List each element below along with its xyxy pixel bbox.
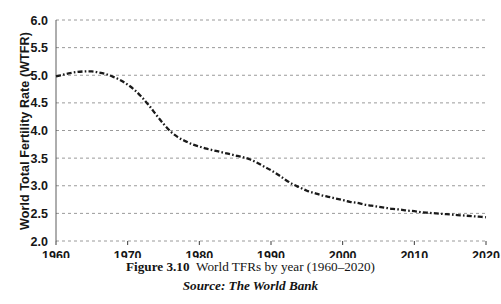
caption-figure-number: Figure 3.10: [126, 259, 190, 274]
chart-plot-area: 2.02.53.03.54.04.55.05.56.0 196019701980…: [0, 0, 501, 258]
figure-container: 2.02.53.03.54.04.55.05.56.0 196019701980…: [0, 0, 501, 304]
caption-description: World TFRs by year (1960–2020): [196, 259, 375, 274]
y-tick-label: 2.5: [31, 207, 48, 221]
y-axis-title: World Total Fertility Rate (WTFR): [18, 32, 32, 230]
line-chart-svg: 2.02.53.03.54.04.55.05.56.0 196019701980…: [0, 0, 501, 258]
gridlines: [56, 20, 486, 241]
y-tick-label: 3.5: [31, 152, 48, 166]
y-tick-label: 6.0: [31, 14, 48, 28]
x-tick-label: 1980: [185, 249, 213, 258]
x-tick-label: 2010: [400, 249, 428, 258]
x-tick-label: 1970: [114, 249, 142, 258]
y-tick-label: 2.0: [31, 235, 48, 249]
y-tick-label: 3.0: [31, 179, 48, 193]
caption-source-line: Source: The World Bank: [0, 277, 501, 295]
x-axis-tick-labels: 1960197019801990200020102020: [42, 249, 500, 258]
figure-caption: Figure 3.10 World TFRs by year (1960–202…: [0, 258, 501, 295]
x-axis-tick-marks: [56, 241, 486, 245]
x-tick-label: 2000: [329, 249, 357, 258]
x-tick-label: 1960: [42, 249, 70, 258]
x-tick-label: 2020: [472, 249, 500, 258]
data-line-wtfr: [56, 71, 486, 217]
y-axis-tick-labels: 2.02.53.03.54.04.55.05.56.0: [31, 14, 48, 249]
x-tick-label: 1990: [257, 249, 285, 258]
caption-main-line: Figure 3.10 World TFRs by year (1960–202…: [0, 258, 501, 277]
y-tick-label: 4.5: [31, 96, 48, 110]
y-tick-label: 5.0: [31, 69, 48, 83]
y-tick-label: 4.0: [31, 124, 48, 138]
data-series-line: [56, 71, 486, 217]
y-tick-label: 5.5: [31, 41, 48, 55]
